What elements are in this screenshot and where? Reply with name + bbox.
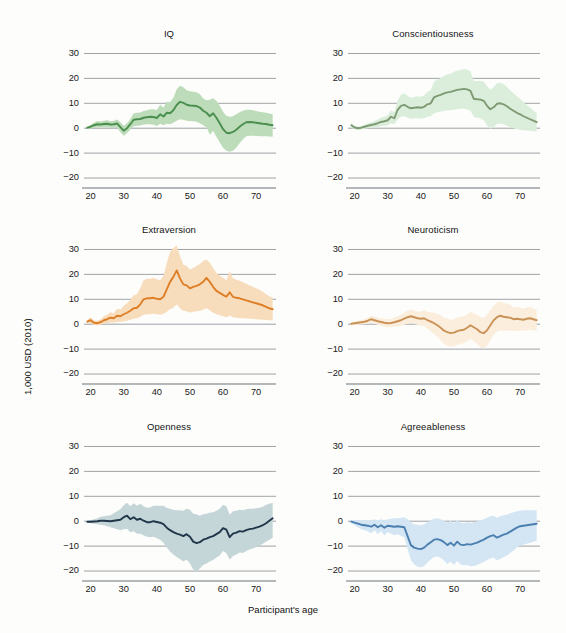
x-tick-label: 60 — [218, 387, 228, 397]
x-tick-label: 70 — [251, 191, 261, 201]
y-tick-label: 20 — [333, 73, 343, 83]
plot-area: 3020100−10−20203040506070 — [322, 236, 544, 408]
x-tick-label: 50 — [185, 387, 195, 397]
x-tick-label: 50 — [185, 584, 195, 594]
confidence-band — [87, 245, 272, 325]
plot-area: 3020100−10−20203040506070 — [58, 236, 280, 408]
y-tick-label: −10 — [63, 541, 79, 551]
y-tick-label: 30 — [69, 244, 79, 254]
panel-extraversion: Extraversion3020100−10−20203040506070 — [58, 224, 280, 408]
x-tick-label: 60 — [482, 584, 492, 594]
confidence-band — [351, 301, 536, 348]
y-tick-label: 10 — [333, 98, 343, 108]
panel-conscientiousness: Conscientiousness3020100−10−202030405060… — [322, 28, 544, 212]
x-tick-label: 50 — [449, 191, 459, 201]
y-tick-label: 20 — [333, 466, 343, 476]
y-tick-label: 0 — [74, 516, 79, 526]
x-tick-label: 30 — [119, 584, 129, 594]
x-tick-label: 30 — [383, 387, 393, 397]
panel-title: Conscientiousness — [322, 28, 544, 39]
y-tick-label: 10 — [69, 98, 79, 108]
y-tick-label: 0 — [338, 319, 343, 329]
y-tick-label: −20 — [327, 368, 343, 378]
x-tick-label: 50 — [185, 191, 195, 201]
x-tick-label: 70 — [251, 387, 261, 397]
x-tick-label: 30 — [383, 584, 393, 594]
y-tick-label: −20 — [63, 565, 79, 575]
y-tick-label: 30 — [69, 441, 79, 451]
x-tick-label: 70 — [251, 584, 261, 594]
y-tick-label: −20 — [63, 368, 79, 378]
y-tick-label: 10 — [333, 491, 343, 501]
y-tick-label: 20 — [69, 269, 79, 279]
x-tick-label: 20 — [85, 387, 95, 397]
x-tick-label: 70 — [515, 191, 525, 201]
x-tick-label: 60 — [482, 191, 492, 201]
panel-iq: IQ3020100−10−20203040506070 — [58, 28, 280, 212]
x-tick-label: 20 — [85, 191, 95, 201]
y-tick-label: 0 — [74, 123, 79, 133]
x-tick-label: 50 — [449, 387, 459, 397]
y-tick-label: −10 — [63, 148, 79, 158]
panel-title: Extraversion — [58, 224, 280, 235]
y-tick-label: 0 — [338, 123, 343, 133]
panel-neuroticism: Neuroticism3020100−10−20203040506070 — [322, 224, 544, 408]
x-tick-label: 20 — [349, 387, 359, 397]
y-tick-label: 10 — [69, 491, 79, 501]
x-tick-label: 40 — [152, 387, 162, 397]
y-axis-label: 1,000 USD (2010) — [22, 318, 33, 395]
panel-title: Neuroticism — [322, 224, 544, 235]
y-tick-label: −10 — [327, 148, 343, 158]
x-tick-label: 40 — [416, 387, 426, 397]
x-tick-label: 20 — [85, 584, 95, 594]
plot-area: 3020100−10−20203040506070 — [58, 40, 280, 212]
x-tick-label: 30 — [383, 191, 393, 201]
y-tick-label: −10 — [327, 541, 343, 551]
y-tick-label: −20 — [327, 565, 343, 575]
confidence-band — [87, 503, 272, 572]
x-tick-label: 20 — [349, 191, 359, 201]
y-tick-label: 10 — [69, 294, 79, 304]
confidence-band — [87, 86, 272, 152]
x-tick-label: 60 — [218, 191, 228, 201]
y-tick-label: 30 — [333, 48, 343, 58]
x-tick-label: 60 — [218, 584, 228, 594]
y-tick-label: 20 — [69, 73, 79, 83]
y-tick-label: −20 — [327, 172, 343, 182]
figure-root: 1,000 USD (2010) Participant's age IQ302… — [0, 0, 566, 633]
plot-area: 3020100−10−20203040506070 — [58, 433, 280, 605]
y-tick-label: 30 — [69, 48, 79, 58]
x-tick-label: 40 — [416, 584, 426, 594]
plot-area: 3020100−10−20203040506070 — [322, 40, 544, 212]
y-tick-label: 30 — [333, 441, 343, 451]
y-tick-label: 30 — [333, 244, 343, 254]
y-tick-label: 20 — [333, 269, 343, 279]
y-tick-label: −10 — [327, 344, 343, 354]
panel-openness: Openness3020100−10−20203040506070 — [58, 421, 280, 605]
x-tick-label: 70 — [515, 584, 525, 594]
x-tick-label: 70 — [515, 387, 525, 397]
x-tick-label: 30 — [119, 387, 129, 397]
x-tick-label: 40 — [152, 191, 162, 201]
panel-title: Openness — [58, 421, 280, 432]
y-tick-label: −20 — [63, 172, 79, 182]
x-tick-label: 20 — [349, 584, 359, 594]
x-tick-label: 40 — [416, 191, 426, 201]
y-tick-label: 0 — [338, 516, 343, 526]
y-tick-label: −10 — [63, 344, 79, 354]
y-tick-label: 20 — [69, 466, 79, 476]
x-axis-label: Participant's age — [0, 604, 566, 615]
x-tick-label: 40 — [152, 584, 162, 594]
x-tick-label: 50 — [449, 584, 459, 594]
panel-agreeableness: Agreeableness3020100−10−20203040506070 — [322, 421, 544, 605]
panel-title: Agreeableness — [322, 421, 544, 432]
x-tick-label: 60 — [482, 387, 492, 397]
y-tick-label: 0 — [74, 319, 79, 329]
y-tick-label: 10 — [333, 294, 343, 304]
plot-area: 3020100−10−20203040506070 — [322, 433, 544, 605]
confidence-band — [351, 510, 536, 567]
panel-title: IQ — [58, 28, 280, 39]
x-tick-label: 30 — [119, 191, 129, 201]
